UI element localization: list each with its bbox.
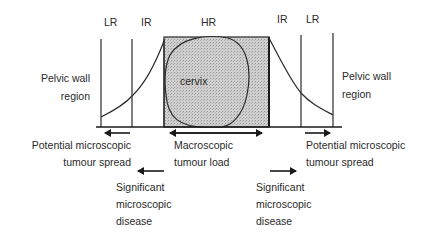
significant-right-line2: microscopic	[256, 196, 311, 213]
zone-label-ir-left: IR	[141, 14, 152, 31]
pelvic-wall-right-line2: region	[342, 86, 371, 103]
significant-left-line2: microscopic	[116, 196, 171, 213]
cervix-label: cervix	[180, 73, 207, 90]
significant-left-line3: disease	[116, 213, 152, 230]
pelvic-wall-right-line1: Pelvic wall	[342, 68, 391, 85]
significant-right-line1: Significant	[256, 179, 304, 196]
zone-label-lr-right: LR	[306, 11, 319, 28]
macroscopic-line1: Macroscopic	[174, 137, 233, 154]
macroscopic-line2: tumour load	[174, 154, 229, 171]
significant-left-line1: Significant	[116, 179, 164, 196]
potential-left-line1: Potential microscopic	[10, 137, 131, 154]
zone-label-lr-left: LR	[104, 14, 117, 31]
significant-right-line3: disease	[256, 213, 292, 230]
potential-left-line2: tumour spread	[10, 154, 131, 171]
pelvic-wall-left-line1: Pelvic wall	[20, 70, 90, 87]
pelvic-wall-left-line2: region	[20, 88, 90, 105]
potential-right-line2: tumour spread	[306, 154, 374, 171]
diagram-canvas	[0, 0, 436, 242]
potential-right-line1: Potential microscopic	[306, 137, 405, 154]
zone-label-ir-right: IR	[277, 11, 288, 28]
zone-label-hr: HR	[201, 14, 216, 31]
